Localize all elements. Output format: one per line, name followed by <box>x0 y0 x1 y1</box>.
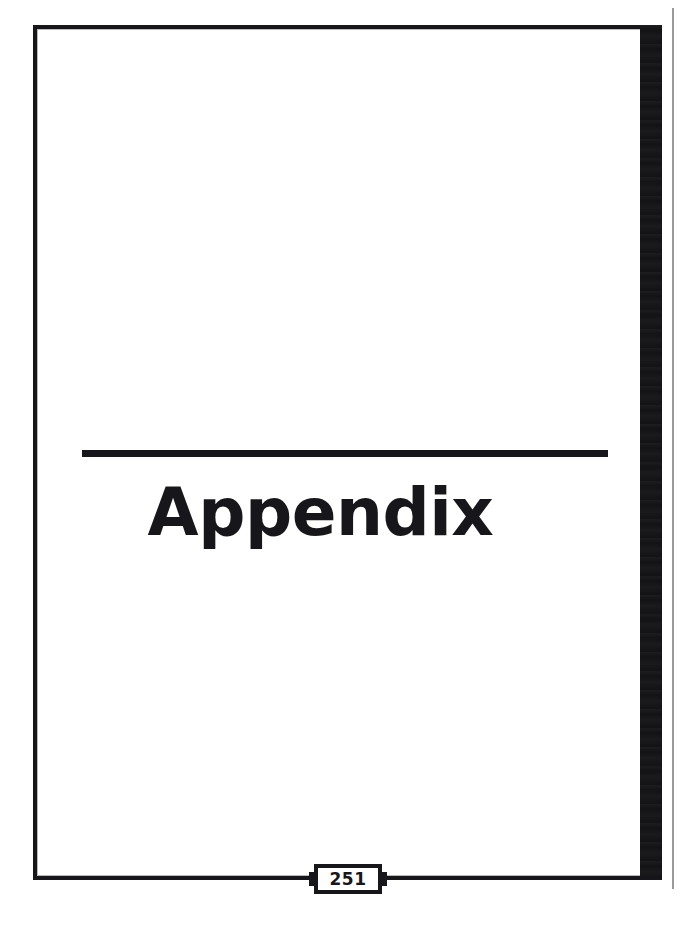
scanned-page: Appendix 251 <box>0 0 699 933</box>
page-number: 251 <box>330 870 367 887</box>
scanner-edge-line <box>672 8 674 889</box>
page-number-tag: 251 <box>309 864 387 894</box>
page-title: Appendix <box>33 480 608 546</box>
black-spine-bar <box>640 25 662 878</box>
page-number-box: 251 <box>314 864 382 894</box>
title-horizontal-rule <box>82 450 608 457</box>
